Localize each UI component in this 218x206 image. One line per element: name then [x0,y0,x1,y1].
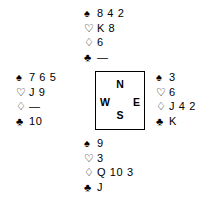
hand-east: ♠ 3 ♡ 6 ♢ J 4 2 ♣ K [156,70,196,128]
heart-icon: ♡ [16,85,29,100]
hand-south-clubs: J [97,180,103,195]
hand-east-spades: 3 [169,70,176,85]
hand-west-spades-row: ♠ 7 6 5 [16,70,56,85]
hand-south-spades-row: ♠ 9 [84,136,134,151]
hand-east-clubs-row: ♣ K [156,114,196,129]
hand-south-hearts: 3 [97,151,104,166]
hand-north: ♠ 8 4 2 ♡ K 8 ♢ 6 ♣ — [84,6,124,64]
diamond-icon: ♢ [84,35,97,50]
club-icon: ♣ [156,114,169,129]
hand-north-clubs-row: ♣ — [84,50,124,65]
hand-east-diamonds-row: ♢ J 4 2 [156,99,196,114]
spade-icon: ♠ [156,70,169,85]
hand-west-clubs: 10 [29,114,42,129]
hand-north-hearts-row: ♡ K 8 [84,21,124,36]
spade-icon: ♠ [84,6,97,21]
hand-north-spades-row: ♠ 8 4 2 [84,6,124,21]
hand-north-spades: 8 4 2 [97,6,124,21]
hand-west-hearts-row: ♡ J 9 [16,85,56,100]
hand-west-hearts: J 9 [29,85,45,100]
hand-north-diamonds-row: ♢ 6 [84,35,124,50]
diamond-icon: ♢ [84,165,97,180]
spade-icon: ♠ [16,70,29,85]
bridge-deal-diagram: ♠ 8 4 2 ♡ K 8 ♢ 6 ♣ — ♠ 7 6 5 ♡ J 9 ♢ — [0,0,218,206]
club-icon: ♣ [16,114,29,129]
heart-icon: ♡ [156,85,169,100]
hand-south-diamonds-row: ♢ Q 10 3 [84,165,134,180]
heart-icon: ♡ [84,151,97,166]
club-icon: ♣ [84,50,97,65]
hand-north-hearts: K 8 [97,21,115,36]
hand-south-hearts-row: ♡ 3 [84,151,134,166]
diamond-icon: ♢ [156,99,169,114]
compass-label-south: S [96,110,144,121]
hand-east-hearts-row: ♡ 6 [156,85,196,100]
hand-west-diamonds: — [29,99,40,114]
hand-east-hearts: 6 [169,85,176,100]
hand-west-diamonds-row: ♢ — [16,99,56,114]
compass-label-east: E [133,97,140,108]
diamond-icon: ♢ [16,99,29,114]
hand-east-spades-row: ♠ 3 [156,70,196,85]
hand-west: ♠ 7 6 5 ♡ J 9 ♢ — ♣ 10 [16,70,56,128]
compass-label-north: N [96,79,144,90]
hand-west-spades: 7 6 5 [29,70,56,85]
compass-label-west: W [100,97,110,108]
heart-icon: ♡ [84,21,97,36]
club-icon: ♣ [84,180,97,195]
spade-icon: ♠ [84,136,97,151]
hand-west-clubs-row: ♣ 10 [16,114,56,129]
hand-north-clubs: — [97,50,108,65]
hand-south-diamonds: Q 10 3 [97,165,134,180]
hand-north-diamonds: 6 [97,35,104,50]
hand-east-diamonds: J 4 2 [169,99,196,114]
hand-south: ♠ 9 ♡ 3 ♢ Q 10 3 ♣ J [84,136,134,194]
hand-east-clubs: K [169,114,177,129]
hand-south-spades: 9 [97,136,104,151]
compass-box: N W E S [95,71,145,130]
hand-south-clubs-row: ♣ J [84,180,134,195]
